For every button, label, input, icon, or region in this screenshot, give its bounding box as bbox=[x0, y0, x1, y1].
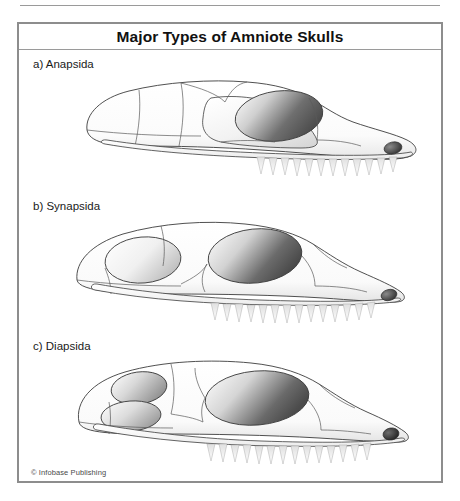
figure-title: Major Types of Amniote Skulls bbox=[117, 28, 344, 46]
figure-title-bar: Major Types of Amniote Skulls bbox=[19, 24, 441, 50]
skull-illustration-diapsida bbox=[61, 350, 429, 470]
skull-block-anapsida: a) Anapsida bbox=[19, 50, 441, 192]
figure-body: a) Anapsida bbox=[19, 50, 441, 483]
anapsid-skull-outline bbox=[87, 81, 416, 176]
figure-panel: Major Types of Amniote Skulls a) Anapsid… bbox=[17, 22, 443, 483]
skull-illustration-anapsida bbox=[61, 68, 429, 188]
skull-block-synapsida: b) Synapsida bbox=[19, 192, 441, 332]
diapsid-skull-outline bbox=[78, 361, 408, 464]
copyright-notice: © Infobase Publishing bbox=[31, 468, 106, 477]
skull-block-diapsida: c) Diapsida bbox=[19, 332, 441, 478]
synapsid-skull-outline bbox=[77, 222, 405, 323]
top-rule bbox=[20, 5, 440, 6]
skull-illustration-synapsida bbox=[61, 210, 429, 330]
figure-page: Major Types of Amniote Skulls a) Anapsid… bbox=[0, 0, 460, 501]
